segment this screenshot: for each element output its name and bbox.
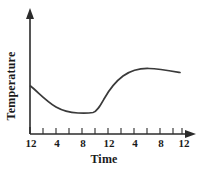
temperature-curve: [31, 68, 181, 113]
x-tick-label: 8: [158, 137, 164, 149]
x-tick-label: 12: [104, 137, 116, 149]
x-tick-label: 12: [179, 137, 191, 149]
y-axis-label: Temperature: [4, 51, 18, 120]
x-axis-label: Time: [90, 152, 118, 166]
temperature-time-chart: 12 4 8 12 4 8 12 Temperature Time: [0, 0, 201, 172]
x-tick-label: 4: [132, 137, 138, 149]
chart-canvas: 12 4 8 12 4 8 12 Temperature Time: [0, 0, 201, 172]
x-tick-label: 12: [26, 137, 38, 149]
x-tick-label: 8: [80, 137, 86, 149]
x-axis-tick-labels: 12 4 8 12 4 8 12: [26, 137, 191, 149]
y-axis-arrow-icon: [26, 8, 34, 19]
x-axis-ticks: [30, 127, 182, 134]
x-tick-label: 4: [54, 137, 60, 149]
